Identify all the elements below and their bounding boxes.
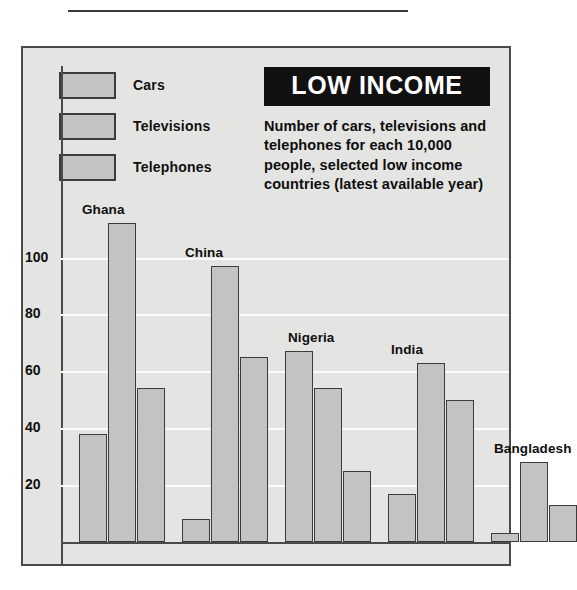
category-label-bangladesh: Bangladesh (494, 441, 572, 456)
chart-panel: Cars Televisions Telephones LOW INCOME N… (21, 46, 511, 566)
bar-ghana-cars (79, 434, 107, 542)
bar-bangladesh-televisions (520, 462, 548, 542)
y-tick-label-20: 20 (25, 476, 59, 492)
bar-india-cars (388, 494, 416, 542)
bar-nigeria-telephones (343, 471, 371, 542)
category-label-china: China (185, 245, 223, 260)
bar-nigeria-cars (285, 351, 313, 542)
top-divider-rule (68, 10, 408, 12)
bar-china-telephones (240, 357, 268, 542)
y-tick-label-60: 60 (25, 362, 59, 378)
bar-bangladesh-cars (491, 533, 519, 542)
category-label-nigeria: Nigeria (288, 330, 334, 345)
bar-nigeria-televisions (314, 388, 342, 542)
y-tick-label-100: 100 (25, 249, 59, 265)
bar-india-telephones (446, 400, 474, 542)
y-tick-label-40: 40 (25, 419, 59, 435)
category-label-ghana: Ghana (82, 202, 125, 217)
bar-india-televisions (417, 363, 445, 542)
x-axis-baseline (61, 542, 509, 544)
y-tick-label-80: 80 (25, 305, 59, 321)
plot-area: 20406080100 GhanaChinaNigeriaIndiaBangla… (61, 48, 509, 564)
bar-bangladesh-telephones (549, 505, 577, 542)
bar-ghana-televisions (108, 223, 136, 542)
bar-china-televisions (211, 266, 239, 542)
bar-china-cars (182, 519, 210, 542)
bar-ghana-telephones (137, 388, 165, 542)
category-label-india: India (391, 342, 423, 357)
